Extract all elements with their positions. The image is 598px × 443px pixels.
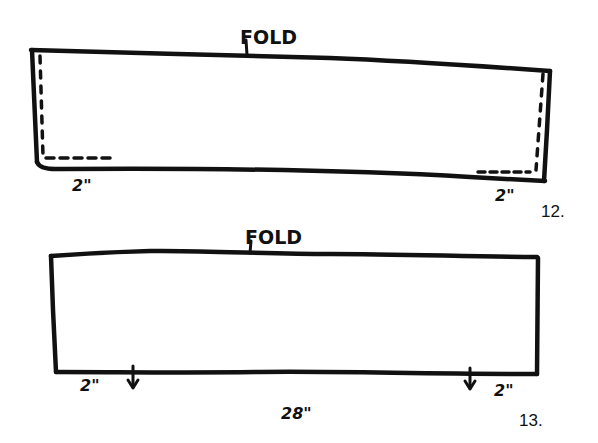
figure-13-rectangle (51, 241, 538, 374)
figure-12-rectangle (31, 40, 550, 181)
figure-13-arrows (128, 366, 475, 389)
figure-12-right-dimension: 2" (495, 188, 514, 204)
figure-13-right-dimension: 2" (494, 383, 513, 399)
figure-13-left-dimension: 2" (80, 378, 99, 394)
figure-12-left-dimension: 2" (72, 178, 91, 194)
figure-13-fold-label: FOLD (245, 228, 302, 247)
sewing-instruction-diagram: FOLD 2" 2" 12. FOLD 2" 2" 28" 13. (0, 0, 598, 443)
figure-13-number: 13. (519, 412, 543, 429)
figure-12-fold-label: FOLD (240, 28, 297, 47)
figure-12-seam-lines (40, 56, 543, 172)
figure-12-number: 12. (541, 203, 565, 220)
figure-13-width-dimension: 28" (281, 406, 312, 422)
